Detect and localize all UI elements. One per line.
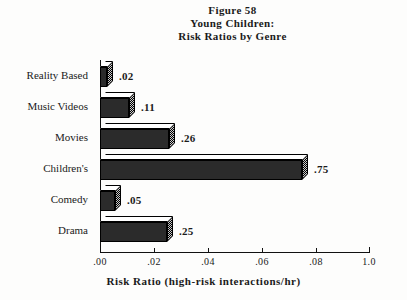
category-label-movies: Movies	[0, 131, 88, 143]
bar-side-face	[167, 216, 173, 242]
plot-area: Reality Based Music Videos Movies Childr…	[0, 52, 407, 257]
category-label-drama: Drama	[0, 224, 88, 236]
x-axis-line	[100, 252, 370, 253]
bar-side-face	[107, 61, 113, 87]
bar-front-face	[100, 67, 107, 87]
bar-value-label: .75	[314, 163, 329, 175]
x-tick-label-2: .04	[188, 256, 228, 267]
bar-value-label: .11	[141, 101, 155, 113]
x-tick-1	[154, 248, 155, 253]
bar-side-face	[115, 185, 121, 211]
bar-front-face	[100, 222, 167, 242]
x-tick-5	[369, 247, 370, 253]
x-tick-label-0: .00	[80, 256, 120, 267]
category-label-reality-based: Reality Based	[0, 69, 88, 81]
bar-value-label: .05	[127, 194, 142, 206]
bar-side-face	[302, 154, 308, 180]
category-label-music-videos: Music Videos	[0, 100, 88, 112]
bar-value-label: .26	[181, 132, 196, 144]
x-tick-label-3: .06	[242, 256, 282, 267]
figure-number: Figure 58	[58, 4, 407, 17]
x-tick-3	[262, 248, 263, 253]
chart-subtitle-1: Young Children:	[58, 17, 407, 30]
bar-side-face	[169, 123, 175, 149]
bar-side-face	[129, 92, 135, 118]
category-label-childrens: Children's	[0, 162, 88, 174]
bar-value-label: .02	[119, 70, 134, 82]
category-label-comedy: Comedy	[0, 193, 88, 205]
bar-front-face	[100, 191, 115, 211]
x-tick-4	[316, 248, 317, 253]
x-axis-title: Risk Ratio (high-risk interactions/hr)	[0, 275, 407, 287]
x-tick-label-1: .02	[134, 256, 174, 267]
x-tick-label-5: 1.0	[349, 256, 389, 267]
chart-subtitle-2: Risk Ratios by Genre	[58, 30, 407, 43]
x-tick-2	[208, 248, 209, 253]
x-tick-0	[100, 248, 101, 253]
bar-front-face	[100, 98, 129, 118]
chart-title-block: Figure 58 Young Children: Risk Ratios by…	[0, 4, 407, 43]
figure-58-chart: Figure 58 Young Children: Risk Ratios by…	[0, 0, 407, 300]
bar-front-face	[100, 129, 169, 149]
bar-value-label: .25	[179, 225, 194, 237]
x-tick-label-4: .08	[296, 256, 336, 267]
bar-front-face	[100, 160, 302, 180]
